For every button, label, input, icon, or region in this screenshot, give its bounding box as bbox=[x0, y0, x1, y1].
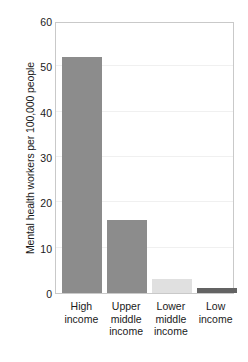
bar[interactable] bbox=[62, 57, 102, 293]
y-axis-tick-label: 0 bbox=[26, 289, 52, 299]
y-axis-tick-label: 20 bbox=[26, 198, 52, 208]
y-axis-tick-label: 40 bbox=[26, 108, 52, 118]
bar[interactable] bbox=[107, 220, 147, 293]
x-axis-category-label: Low income bbox=[188, 300, 244, 325]
y-axis-tick-label: 10 bbox=[26, 244, 52, 254]
y-axis-tick-label: 30 bbox=[26, 153, 52, 163]
y-axis-tick-label: 60 bbox=[26, 17, 52, 27]
bar[interactable] bbox=[197, 288, 237, 293]
y-axis-tick-label: 50 bbox=[26, 62, 52, 72]
plot-area bbox=[55, 22, 234, 294]
bar[interactable] bbox=[152, 279, 192, 293]
bar-chart: Mental health workers per 100,000 people… bbox=[0, 0, 248, 362]
